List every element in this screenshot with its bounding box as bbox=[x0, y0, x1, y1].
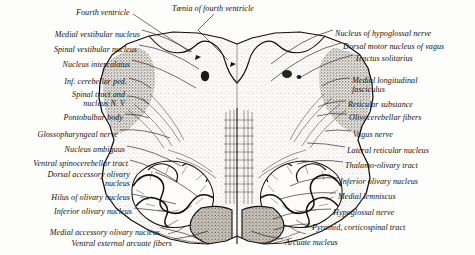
label-nucleus-of-hypoglossal-nerve: Nucleus of hypoglossal nerve bbox=[335, 29, 432, 38]
label-dorsal-motor-nucleus-of-vagus: Dorsal motor nucleus of vagus bbox=[343, 42, 444, 51]
label-medial-vestibular-nucleus: Medial vestibular nucleus bbox=[55, 30, 140, 39]
label-nucleus-ambiguus: Nucleus ambiguus bbox=[65, 145, 125, 154]
label-ventral-external-arcuate-fibers: Ventral external arcuate fibers bbox=[72, 239, 172, 248]
label-ventral-spinocerebellar-tract: Ventral spinocerebellar tract bbox=[33, 159, 128, 168]
label-fourth-ventricle: Fourth ventricle bbox=[76, 8, 130, 17]
label-inferior-olivary-nucleus-left: Inferior olivary nucleus bbox=[54, 207, 132, 216]
tractus-solitarius-left bbox=[201, 71, 209, 81]
label-olivocerebellar-fibers: Olivocerebellar fibers bbox=[349, 113, 422, 122]
label-spinal-vestibular-nucleus: Spinal vestibular nucleus bbox=[54, 45, 137, 54]
label-spinal-tract-and-nucleus-n-v: Spinal tract and nucleus N. V bbox=[72, 90, 125, 109]
label-thalamo-olivary-tract: Thalamo-olivary tract bbox=[345, 161, 418, 170]
label-lateral-reticular-nucleus: Lateral reticular nucleus bbox=[347, 146, 429, 155]
label-medial-accessory-olivary-nucleus: Medial accessory olivary nucleus bbox=[50, 228, 160, 237]
label-hypoglossal-nerve: Hypoglossal nerve bbox=[333, 208, 394, 217]
label-glossopharyngeal-nerve: Glossopharyngeal nerve bbox=[38, 130, 118, 139]
label-pontobulbar-body: Pontobulbar body bbox=[64, 113, 123, 122]
label-medial-longitudinal-fasciculus: Medial longitudinal fasciculus bbox=[352, 76, 417, 95]
label-inf-cerebellar-ped: Inf. cerebellar ped. bbox=[64, 77, 127, 86]
label-inferior-olivary-nucleus-right: Inferior olivary nucleus bbox=[340, 177, 418, 186]
label-nucleus-intercalatus: Nucleus intercalatus bbox=[63, 60, 130, 69]
label-medial-lemniscus: Medial lemniscus bbox=[338, 192, 396, 201]
label-reticular-substance: Reticular substance bbox=[348, 100, 413, 109]
label-arcuate-nucleus: Arcuate nucleus bbox=[285, 238, 338, 247]
label-hilus-of-olivary-nucleus: Hilus of olivary nucleus bbox=[51, 193, 130, 202]
anatomy-figure-medulla-section: Fourth ventricleTænia of fourth ventricl… bbox=[0, 0, 475, 255]
label-dorsal-accessory-olivary-nucleus: Dorsal accessory olivary nucleus bbox=[47, 170, 130, 189]
label-pyramid-corticospinal-tract: Pyramid, corticospinal tract bbox=[312, 223, 405, 232]
label-tractus-solitarius: Tractus solitarius bbox=[355, 54, 413, 63]
label-taenia-of-fourth-ventricle: Tænia of fourth ventricle bbox=[172, 4, 254, 13]
label-vagus-nerve: Vagus nerve bbox=[353, 130, 393, 139]
